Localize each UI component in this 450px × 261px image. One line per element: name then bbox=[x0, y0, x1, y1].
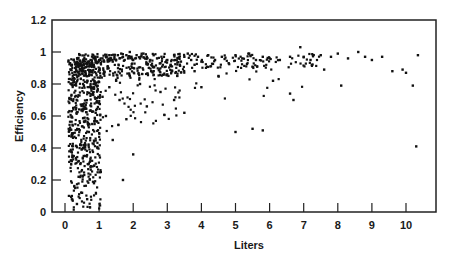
data-point bbox=[168, 118, 170, 120]
data-point bbox=[106, 56, 108, 58]
data-point bbox=[75, 162, 77, 164]
data-point bbox=[99, 94, 101, 96]
data-point bbox=[94, 180, 96, 182]
data-point bbox=[78, 193, 80, 195]
data-point bbox=[311, 64, 313, 66]
data-point bbox=[92, 94, 94, 96]
data-point bbox=[133, 72, 135, 74]
data-point bbox=[262, 129, 264, 131]
data-point bbox=[111, 59, 113, 61]
data-point bbox=[183, 54, 185, 56]
data-point bbox=[175, 107, 177, 109]
data-point bbox=[68, 89, 70, 91]
data-point bbox=[88, 123, 90, 125]
data-point bbox=[97, 88, 99, 90]
data-point bbox=[82, 178, 84, 180]
data-point bbox=[178, 56, 180, 58]
data-point bbox=[240, 56, 242, 58]
data-point bbox=[164, 61, 166, 63]
data-point bbox=[120, 91, 122, 93]
data-point bbox=[223, 58, 225, 60]
data-point bbox=[197, 56, 199, 58]
data-point bbox=[93, 165, 95, 167]
data-point bbox=[69, 126, 71, 128]
data-point bbox=[70, 114, 72, 116]
data-point bbox=[138, 56, 140, 58]
data-point bbox=[149, 68, 151, 70]
data-point bbox=[100, 57, 102, 59]
data-point bbox=[82, 157, 84, 159]
data-point bbox=[202, 61, 204, 63]
data-point bbox=[93, 194, 95, 196]
data-point bbox=[240, 60, 242, 62]
data-point bbox=[162, 74, 164, 76]
data-point bbox=[78, 108, 80, 110]
data-point bbox=[109, 74, 111, 76]
data-point bbox=[159, 70, 161, 72]
data-point bbox=[72, 145, 74, 147]
data-point bbox=[97, 129, 99, 131]
data-point bbox=[82, 79, 84, 81]
data-point bbox=[90, 80, 92, 82]
data-point bbox=[96, 91, 98, 93]
data-point bbox=[86, 93, 88, 95]
data-point bbox=[347, 57, 349, 59]
data-point bbox=[68, 156, 70, 158]
data-point bbox=[75, 145, 77, 147]
data-point bbox=[213, 60, 215, 62]
data-point bbox=[371, 59, 373, 61]
data-point bbox=[73, 74, 75, 76]
data-point bbox=[201, 67, 203, 69]
data-point bbox=[147, 63, 149, 65]
data-point bbox=[70, 149, 72, 151]
data-point bbox=[86, 113, 88, 115]
data-point bbox=[83, 135, 85, 137]
data-point bbox=[86, 99, 88, 101]
data-point bbox=[78, 147, 80, 149]
data-point bbox=[130, 115, 132, 117]
data-point bbox=[69, 167, 71, 169]
data-point bbox=[85, 139, 87, 141]
data-point bbox=[71, 160, 73, 162]
data-point bbox=[169, 69, 171, 71]
x-tick-label: 4 bbox=[198, 219, 205, 231]
data-point bbox=[165, 74, 167, 76]
data-point bbox=[85, 111, 87, 113]
data-point bbox=[105, 115, 107, 117]
data-point bbox=[337, 52, 339, 54]
data-point bbox=[80, 162, 82, 164]
data-point bbox=[96, 100, 98, 102]
data-point bbox=[77, 71, 79, 73]
data-point bbox=[128, 74, 130, 76]
data-point bbox=[149, 86, 151, 88]
data-point bbox=[290, 63, 292, 65]
data-point bbox=[73, 59, 75, 61]
data-point bbox=[131, 63, 133, 65]
data-point bbox=[206, 55, 208, 57]
data-point bbox=[79, 122, 81, 124]
data-point bbox=[70, 82, 72, 84]
data-point bbox=[85, 104, 87, 106]
x-tick-label: 5 bbox=[232, 219, 238, 231]
data-point bbox=[69, 143, 71, 145]
data-point bbox=[83, 137, 85, 139]
data-point bbox=[79, 83, 81, 85]
data-point bbox=[74, 96, 76, 98]
data-point bbox=[162, 64, 164, 66]
data-point bbox=[87, 118, 89, 120]
data-point bbox=[151, 101, 153, 103]
data-point bbox=[105, 90, 107, 92]
data-point bbox=[159, 67, 161, 69]
data-point bbox=[99, 144, 101, 146]
data-point bbox=[96, 171, 98, 173]
data-point bbox=[71, 182, 73, 184]
data-point bbox=[79, 91, 81, 93]
data-point bbox=[155, 64, 157, 66]
data-point bbox=[176, 61, 178, 63]
data-point bbox=[176, 59, 178, 61]
data-point bbox=[78, 86, 80, 88]
data-point bbox=[119, 68, 121, 70]
data-point bbox=[83, 171, 85, 173]
data-point bbox=[245, 65, 247, 67]
data-point bbox=[109, 57, 111, 59]
